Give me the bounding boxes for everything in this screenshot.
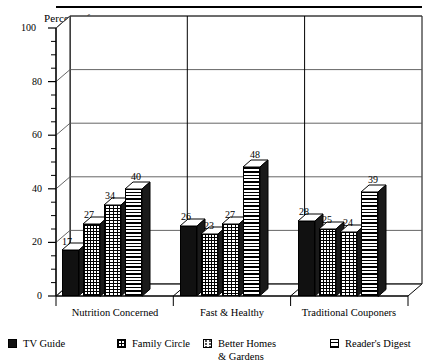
bar-nutrition-tv-guide	[62, 250, 79, 296]
legend-label-family-circle: Family Circle	[132, 337, 190, 350]
bar-fast-family-circle	[201, 234, 218, 296]
bar-label-fast-family-circle: 23	[194, 221, 224, 231]
bar-label-nutrition-readers-digest: 40	[121, 172, 151, 182]
y-tick-label-40: 40	[16, 184, 42, 194]
legend-swatch-grid-icon	[117, 339, 126, 348]
x-category-label-traditional-couponers: Traditional Couponers	[290, 308, 408, 319]
bar-nutrition-better-homes	[104, 205, 121, 296]
y-tick-label-60: 60	[16, 130, 42, 140]
x-axis-ticks	[56, 296, 408, 306]
bar-traditional-family-circle	[319, 229, 336, 296]
y-tick-label-20: 20	[16, 237, 42, 247]
bar-traditional-tv-guide	[298, 221, 315, 296]
y-tick-label-100: 100	[10, 23, 36, 33]
chart-plot-area: 0 20 40 60 80 100 17 27 34 4	[0, 0, 429, 362]
legend-label-better-homes: Better Homes	[218, 337, 276, 350]
bar-label-fast-better-homes: 27	[215, 210, 245, 220]
legend-label-tv-guide: TV Guide	[23, 337, 65, 350]
y-tick-label-0: 0	[16, 291, 42, 301]
legend-swatch-dots-icon	[203, 339, 212, 348]
chart-legend: TV Guide Family Circle Better Homes & Ga…	[0, 332, 429, 362]
bar-label-traditional-readers-digest: 39	[358, 175, 388, 185]
legend-label-readers-digest: Reader's Digest	[345, 337, 411, 350]
y-tick-label-80: 80	[16, 77, 42, 87]
bar-traditional-readers-digest	[361, 192, 378, 297]
x-category-label-nutrition-concerned: Nutrition Concerned	[60, 308, 170, 319]
bar-nutrition-family-circle	[83, 224, 100, 296]
legend-swatch-solid-icon	[8, 339, 17, 348]
bar-fast-readers-digest	[243, 167, 260, 296]
legend-swatch-hlines-icon	[330, 339, 339, 348]
bar-fast-better-homes	[222, 224, 239, 296]
bar-label-fast-readers-digest: 48	[240, 150, 270, 160]
bar-label-nutrition-better-homes: 34	[95, 191, 125, 201]
bar-label-nutrition-family-circle: 27	[74, 210, 104, 220]
bar-traditional-better-homes	[340, 232, 357, 296]
legend-label-gardens: & Gardens	[218, 350, 264, 362]
bar-label-traditional-better-homes: 24	[333, 218, 363, 228]
bar-nutrition-readers-digest	[125, 189, 142, 296]
bar-fast-tv-guide	[180, 226, 197, 296]
x-category-label-fast-healthy: Fast & Healthy	[177, 308, 287, 319]
bar-label-nutrition-tv-guide: 17	[52, 237, 82, 247]
